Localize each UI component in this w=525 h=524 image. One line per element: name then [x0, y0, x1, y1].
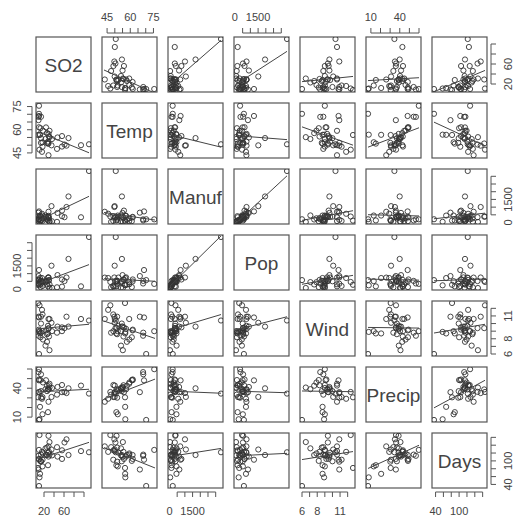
- scatter-panel: [233, 36, 289, 92]
- scatterplot-matrix: SO2TempManufPopWindPrecipDays 2060206045…: [0, 0, 525, 524]
- scatter-panel: [299, 103, 355, 158]
- scatter-panel: [431, 367, 487, 423]
- regression-line: [368, 327, 419, 328]
- scatter-panel: [233, 432, 289, 488]
- scatter-panel: [233, 168, 289, 224]
- variable-label: Pop: [245, 253, 279, 274]
- tick-label: 100: [502, 452, 514, 470]
- tick-label: 8: [314, 505, 320, 517]
- scatter-panel: [365, 36, 421, 92]
- scatter-panel: [431, 234, 487, 290]
- scatter-panel: [299, 168, 355, 224]
- scatter-panel: [167, 234, 223, 290]
- right-axis-manuf: 01500: [491, 176, 514, 225]
- bottom-axis-so2: 2060: [38, 492, 84, 517]
- scatter-panel: [35, 432, 91, 488]
- scatter-panel: [431, 103, 487, 158]
- top-axis-temp: 456075: [101, 11, 160, 33]
- variable-label: Days: [438, 451, 481, 472]
- scatter-panel: [35, 103, 91, 158]
- tick-label: 11: [502, 310, 514, 321]
- scatter-panel: [431, 300, 487, 356]
- scatter-panel: [35, 168, 91, 224]
- scatter-panel: [365, 168, 421, 224]
- tick-label: 60: [124, 11, 136, 23]
- tick-label: 40: [429, 505, 441, 517]
- scatter-panel: [233, 300, 289, 356]
- bottom-axis-wind: 6811: [299, 492, 348, 517]
- tick-label: 1500: [180, 505, 204, 517]
- top-axis-precip: 1040: [365, 11, 419, 33]
- scatter-panel: [102, 300, 157, 356]
- tick-label: 100: [450, 505, 468, 517]
- tick-label: 6: [299, 505, 305, 517]
- tick-label: 45: [11, 147, 23, 159]
- scatter-panel: [167, 300, 223, 356]
- variable-label: Wind: [306, 319, 349, 340]
- bottom-axis-manuf: 01500: [166, 492, 215, 517]
- tick-label: 0: [11, 286, 23, 292]
- scatter-panel: [299, 234, 355, 290]
- variable-label: SO2: [44, 55, 82, 76]
- variable-label: Precip: [367, 385, 421, 406]
- scatter-panel: [233, 103, 289, 158]
- panel-frame: [102, 37, 157, 92]
- tick-label: 10: [11, 411, 23, 423]
- tick-label: 8: [502, 336, 514, 342]
- scatter-panel: [167, 432, 223, 488]
- tick-label: 20: [38, 505, 50, 517]
- left-axis-pop: 01500: [11, 243, 32, 292]
- tick-label: 1500: [11, 254, 23, 278]
- panel-grid: SO2TempManufPopWindPrecipDays: [35, 36, 487, 488]
- scatter-panel: [365, 103, 421, 158]
- tick-label: 11: [334, 505, 345, 517]
- bottom-axis-days: 40100: [429, 492, 482, 517]
- right-axis-days: 40100: [491, 437, 514, 490]
- tick-label: 0: [166, 505, 172, 517]
- scatter-panel: [35, 300, 91, 356]
- diagonal-label-panel: Precip: [366, 367, 421, 422]
- tick-label: 0: [232, 11, 238, 23]
- diagonal-label-panel: Wind: [300, 301, 355, 356]
- scatter-panel: [167, 103, 223, 158]
- scatter-panel: [102, 36, 157, 93]
- regression-line: [302, 391, 353, 392]
- tick-label: 1500: [246, 11, 270, 23]
- variable-label: Temp: [106, 121, 152, 142]
- diagonal-label-panel: Manuf: [168, 169, 223, 224]
- scatter-panel: [365, 234, 421, 290]
- tick-label: 60: [502, 58, 514, 70]
- right-axis-so2: 2060: [491, 44, 514, 90]
- tick-label: 10: [365, 11, 377, 23]
- diagonal-label-panel: SO2: [36, 37, 91, 92]
- tick-label: 6: [502, 351, 514, 357]
- scatter-panel: [299, 36, 355, 92]
- tick-label: 60: [11, 124, 23, 136]
- tick-label: 45: [101, 11, 113, 23]
- scatter-panel: [431, 36, 487, 92]
- left-axis-temp: 456075: [11, 100, 32, 159]
- tick-label: 40: [11, 382, 23, 394]
- scatter-panel: [102, 367, 157, 423]
- left-axis-precip: 1040: [11, 369, 32, 423]
- scatter-panel: [167, 36, 223, 92]
- tick-label: 75: [147, 11, 159, 23]
- scatter-panel: [431, 168, 487, 224]
- tick-label: 60: [58, 505, 70, 517]
- scatter-panel: [102, 234, 157, 290]
- scatter-panel: [167, 367, 223, 423]
- scatter-panel: [102, 168, 157, 224]
- diagonal-label-panel: Temp: [102, 103, 157, 158]
- scatter-panel: [365, 432, 421, 488]
- scatter-panel: [35, 234, 91, 290]
- right-axis-wind: 6811: [491, 308, 514, 357]
- scatter-panel: [299, 367, 355, 423]
- tick-label: 75: [11, 100, 23, 112]
- scatter-panel: [35, 367, 91, 423]
- tick-label: 0: [502, 219, 514, 225]
- diagonal-label-panel: Pop: [234, 235, 289, 290]
- tick-label: 20: [502, 78, 514, 90]
- scatter-panel: [102, 432, 157, 488]
- tick-label: 40: [394, 11, 406, 23]
- variable-label: Manuf: [169, 187, 223, 208]
